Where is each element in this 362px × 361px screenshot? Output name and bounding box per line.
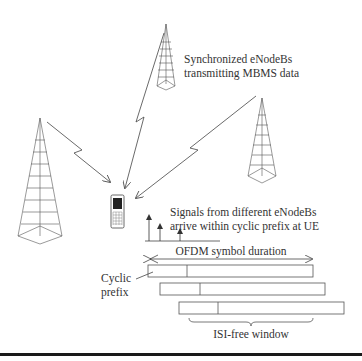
signal-left-arrow: [47, 122, 110, 182]
cyclic-prefix-label-line2: prefix: [101, 286, 129, 299]
cyclic-prefix-label-line1: Cyclic: [101, 272, 131, 285]
tower-right-icon: [248, 98, 276, 183]
tower-top-icon: [157, 24, 175, 90]
enodebs-label-line2: transmitting MBMS data: [184, 67, 299, 80]
isi-free-brace: [189, 318, 313, 326]
signals-label-line1: Signals from different eNodeBs: [170, 206, 317, 219]
mbms-diagram: Synchronized eNodeBs transmitting MBMS d…: [0, 0, 362, 361]
signals-label-line2: arrive within cyclic prefix at UE: [170, 220, 319, 233]
isi-free-window-label: ISI-free window: [213, 328, 289, 340]
tower-left-icon: [18, 118, 62, 244]
signal-right-arrow: [136, 96, 256, 198]
ofdm-symbol-3: [179, 302, 344, 314]
ofdm-duration-label: OFDM symbol duration: [175, 245, 286, 258]
ofdm-symbol-1: [148, 265, 313, 277]
ue-phone-icon: [111, 195, 124, 228]
enodebs-label-line1: Synchronized eNodeBs: [184, 53, 293, 66]
signal-top-arrow: [125, 33, 164, 188]
ofdm-symbol-2: [160, 283, 325, 295]
bottom-rule: [0, 353, 362, 356]
